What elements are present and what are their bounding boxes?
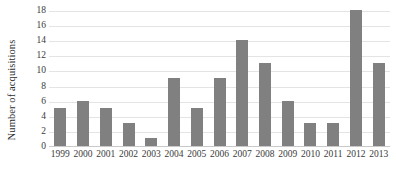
x-axis-tick-label: 2001 bbox=[96, 150, 115, 160]
bar-slot bbox=[72, 11, 95, 146]
y-axis-tick-label: 18 bbox=[37, 6, 47, 16]
x-tick-slot: 2007 bbox=[231, 150, 254, 168]
bar[interactable] bbox=[100, 108, 112, 146]
x-tick-slot: 2012 bbox=[345, 150, 368, 168]
bar[interactable] bbox=[54, 108, 66, 146]
y-axis-tick-label: 4 bbox=[41, 112, 46, 122]
x-tick-slot: 2002 bbox=[117, 150, 140, 168]
x-tick-slot: 2005 bbox=[185, 150, 208, 168]
x-axis-tick-label: 2011 bbox=[324, 150, 343, 160]
x-tick-slot: 2011 bbox=[322, 150, 345, 168]
x-axis-tick-label: 2005 bbox=[187, 150, 206, 160]
bar-slot bbox=[117, 11, 140, 146]
y-axis-tick-labels: 024681012141618 bbox=[22, 11, 46, 147]
x-axis-tick-label: 2006 bbox=[210, 150, 229, 160]
bar[interactable] bbox=[236, 40, 248, 146]
y-axis-tick-label: 6 bbox=[41, 97, 46, 107]
x-tick-slot: 2004 bbox=[163, 150, 186, 168]
bar[interactable] bbox=[282, 101, 294, 146]
x-tick-slot: 2009 bbox=[276, 150, 299, 168]
x-axis-tick-label: 2007 bbox=[233, 150, 252, 160]
x-tick-slot: 2006 bbox=[208, 150, 231, 168]
x-tick-slot: 2008 bbox=[254, 150, 277, 168]
bar[interactable] bbox=[145, 138, 157, 146]
x-axis-tick-label: 2003 bbox=[142, 150, 161, 160]
bar-series bbox=[49, 11, 390, 146]
bar-slot bbox=[208, 11, 231, 146]
y-axis-tick-label: 0 bbox=[41, 142, 46, 152]
bar-slot bbox=[231, 11, 254, 146]
bar[interactable] bbox=[77, 101, 89, 146]
x-axis-tick-label: 2002 bbox=[119, 150, 138, 160]
x-axis-tick-label: 2013 bbox=[369, 150, 388, 160]
bar[interactable] bbox=[191, 108, 203, 146]
y-axis-tick-label: 2 bbox=[41, 127, 46, 137]
x-tick-slot: 1999 bbox=[49, 150, 72, 168]
bar-slot bbox=[367, 11, 390, 146]
bar[interactable] bbox=[214, 78, 226, 146]
x-axis-tick-label: 2004 bbox=[165, 150, 184, 160]
x-axis-tick-label: 2009 bbox=[278, 150, 297, 160]
bar-slot bbox=[163, 11, 186, 146]
bar-slot bbox=[140, 11, 163, 146]
x-axis-tick-label: 2008 bbox=[255, 150, 274, 160]
y-axis-title: Number of acquisitions bbox=[0, 0, 22, 180]
y-axis-tick-label: 12 bbox=[37, 52, 47, 62]
bar[interactable] bbox=[373, 63, 385, 146]
x-tick-slot: 2000 bbox=[72, 150, 95, 168]
x-axis-tick-label: 1999 bbox=[51, 150, 70, 160]
y-axis-tick-label: 16 bbox=[37, 21, 47, 31]
bar[interactable] bbox=[304, 123, 316, 146]
bar[interactable] bbox=[327, 123, 339, 146]
plot-area bbox=[49, 11, 390, 147]
y-axis-tick-label: 8 bbox=[41, 82, 46, 92]
bar-slot bbox=[299, 11, 322, 146]
bar[interactable] bbox=[259, 63, 271, 146]
bar-slot bbox=[322, 11, 345, 146]
bar-slot bbox=[185, 11, 208, 146]
x-axis-tick-label: 2010 bbox=[301, 150, 320, 160]
bar-slot bbox=[49, 11, 72, 146]
x-tick-slot: 2010 bbox=[299, 150, 322, 168]
bar-slot bbox=[345, 11, 368, 146]
y-axis-tick-label: 10 bbox=[37, 67, 47, 77]
bar-slot bbox=[94, 11, 117, 146]
x-axis-tick-label: 2000 bbox=[74, 150, 93, 160]
x-tick-slot: 2013 bbox=[367, 150, 390, 168]
bar-slot bbox=[254, 11, 277, 146]
x-axis-tick-labels: 1999200020012002200320042005200620072008… bbox=[49, 150, 390, 168]
x-tick-slot: 2001 bbox=[94, 150, 117, 168]
bar-chart: Number of acquisitions 024681012141618 1… bbox=[0, 0, 396, 180]
x-tick-slot: 2003 bbox=[140, 150, 163, 168]
bar[interactable] bbox=[168, 78, 180, 146]
x-axis-tick-label: 2012 bbox=[346, 150, 365, 160]
bar[interactable] bbox=[123, 123, 135, 146]
bar[interactable] bbox=[350, 10, 362, 146]
bar-slot bbox=[276, 11, 299, 146]
y-axis-tick-label: 14 bbox=[37, 36, 47, 46]
